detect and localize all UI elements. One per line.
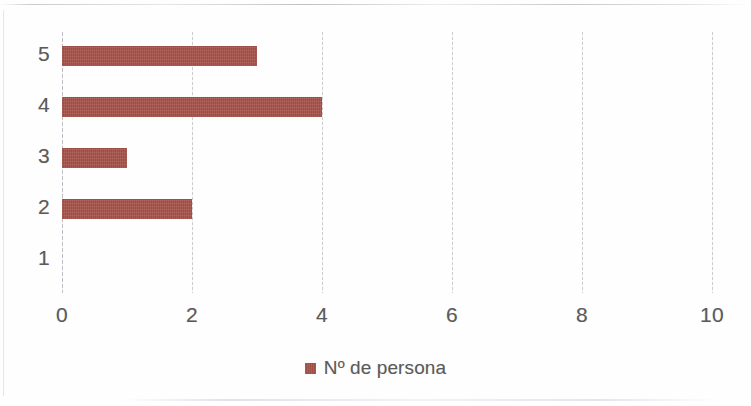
bar-category-4: [62, 97, 322, 117]
chart-legend: Nº de persona: [0, 357, 751, 379]
x-tick-label-2: 2: [162, 303, 222, 327]
legend-swatch-icon: [305, 363, 316, 374]
x-tick-label-6: 6: [422, 303, 482, 327]
y-tick-label-2: 2: [10, 195, 50, 219]
gridline-x-6: [452, 32, 453, 293]
x-tick-label-4: 4: [292, 303, 352, 327]
bar-category-2: [62, 199, 192, 219]
y-tick-label-1: 1: [10, 246, 50, 270]
scan-artifact-bottom-smudge: [120, 399, 720, 401]
bar-category-5: [62, 46, 257, 66]
y-tick-label-5: 5: [10, 42, 50, 66]
x-tick-label-10: 10: [682, 303, 742, 327]
bar-category-3: [62, 148, 127, 168]
chart-page: 54321 0246810 Nº de persona: [0, 0, 751, 406]
plot-area: 54321 0246810: [0, 0, 751, 300]
x-tick-label-8: 8: [552, 303, 612, 327]
gridline-x-2: [192, 32, 193, 293]
legend-label: Nº de persona: [324, 357, 446, 379]
gridline-x-8: [582, 32, 583, 293]
y-tick-label-4: 4: [10, 93, 50, 117]
gridline-x-10: [712, 32, 713, 293]
x-tick-label-0: 0: [32, 303, 92, 327]
y-tick-label-3: 3: [10, 144, 50, 168]
gridline-x-4: [322, 32, 323, 293]
